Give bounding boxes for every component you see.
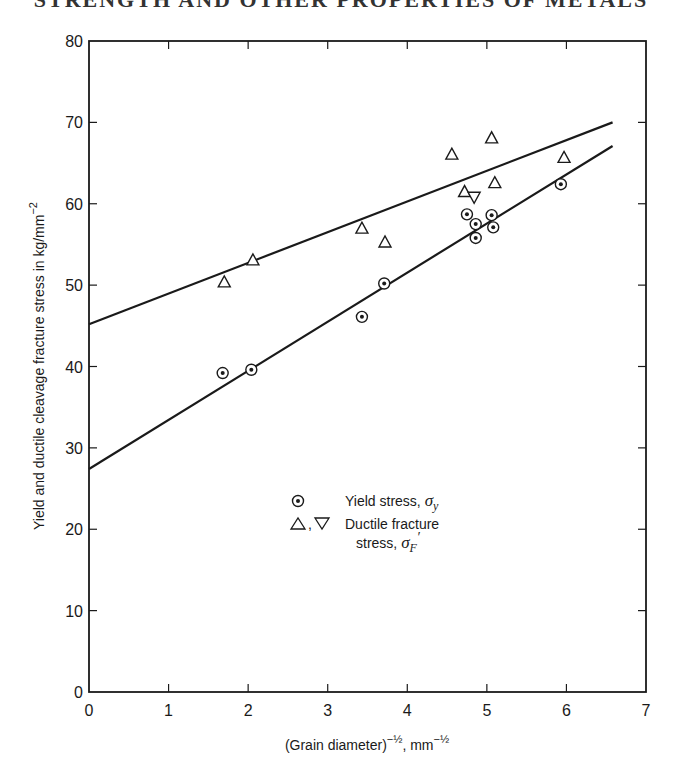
circle-dot-marker-icon [293,496,304,507]
yield-point [470,232,481,243]
yield-point [379,278,390,289]
yield-point-dot [474,222,478,226]
yield-point [461,209,472,220]
x-tick-labels: 01234567 [85,702,651,719]
y-tick-label: 80 [65,33,83,50]
chart: 01234567 01020304050607080 (Grain diamet… [0,0,682,780]
plot-frame [89,41,646,692]
legend-label-yield: Yield stress, [345,493,425,509]
y-tick-label: 30 [65,440,83,457]
fracture-point [379,236,391,247]
yield-point [470,219,481,230]
y-tick-label: 20 [65,521,83,538]
y-axis-label: Yield and ductile cleavage fracture stre… [27,202,47,530]
x-tick-label: 5 [482,702,491,719]
y-tick-labels: 01020304050607080 [65,33,83,701]
y-tick-label: 60 [65,196,83,213]
x-axis-label: (Grain diameter)−½, mm−½ [285,733,449,753]
yield-point-dot [491,225,495,229]
fit-lines [89,122,613,469]
x-axis-label-exp2: −½ [434,733,450,745]
yield-point [356,311,367,322]
fracture-point [218,276,230,287]
yield-point-dot [474,236,478,240]
y-axis-label-exp: −2 [27,202,39,215]
svg-text:stress, σF′: stress, σF′ [356,530,421,555]
fracture-point [558,151,570,162]
x-tick-label: 6 [562,702,571,719]
yield-point [488,222,499,233]
yield-point-dot [221,371,225,375]
yield-point-dot [360,315,364,319]
x-tick-label: 3 [323,702,332,719]
yield-point [555,179,566,190]
y-tick-label: 10 [65,603,83,620]
plot-border [89,41,646,692]
triangle-up-marker-icon [291,518,305,529]
x-tick-label: 4 [403,702,412,719]
legend: Yield stress, σy , Ductile fracture stre… [291,491,439,555]
y-tick-label: 50 [65,277,83,294]
y-tick-label: 40 [65,359,83,376]
x-axis-label-main: (Grain diameter) [285,737,387,753]
x-tick-label: 7 [642,702,651,719]
legend-label-ductile: Ductile fracture [345,516,439,532]
x-axis-label-unit: , mm [402,737,433,753]
svg-text:Yield stress, σy: Yield stress, σy [345,491,439,513]
fracture-point [489,177,501,188]
yield-point-dot [249,368,253,372]
yield-point [217,368,228,379]
x-tick-label: 1 [164,702,173,719]
legend-separator: , [308,516,312,532]
yield-point-dot [382,281,386,285]
yield-point [486,210,497,221]
fracture-point [446,148,458,159]
y-axis-label-main: Yield and ductile cleavage fracture stre… [31,215,47,530]
legend-label-ductile-2: stress, [356,535,401,551]
legend-item-yield: Yield stress, σy [293,491,440,513]
yield-point [246,364,257,375]
yield-point-dot [490,213,494,217]
y-tick-label: 70 [65,114,83,131]
legend-prime-ductile: ′ [417,530,421,545]
fracture-point [486,132,498,143]
x-tick-label: 2 [244,702,253,719]
y-tick-label: 0 [74,684,83,701]
yield-fit-line [89,146,613,469]
yield-point-dot [465,212,469,216]
fracture-fit-line [89,122,613,324]
legend-item-ductile: , Ductile fracture stress, σF′ [291,516,439,555]
legend-sub-yield: y [432,499,439,513]
triangle-down-marker-icon [315,518,329,529]
fracture-point [356,222,368,233]
fracture-point-inverted [468,192,480,203]
x-tick-label: 0 [85,702,94,719]
axis-ticks [89,41,646,692]
x-axis-label-exp1: −½ [387,733,403,745]
yield-point-dot [559,182,563,186]
